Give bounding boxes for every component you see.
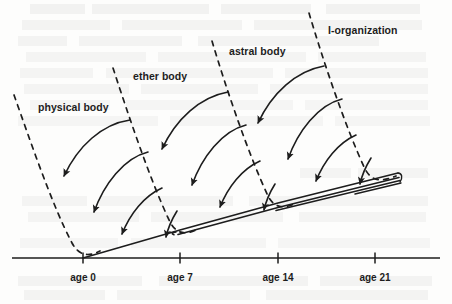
incarnation-strand-3 (276, 181, 400, 211)
curve-ether-body (113, 68, 198, 233)
member-curves (14, 13, 396, 254)
curve-physical-body (14, 95, 100, 254)
time-axis (12, 253, 440, 264)
arrow (162, 92, 228, 149)
arrow (94, 152, 148, 212)
arrow (316, 135, 356, 181)
curve-i-organization (309, 13, 396, 180)
arrow-group-physical-body (64, 120, 177, 237)
arrow (192, 125, 246, 185)
arrow (220, 161, 260, 207)
label-i-organization: I-organization (328, 24, 398, 36)
axis-label-age-0: age 0 (70, 272, 96, 283)
label-physical-body: physical body (38, 101, 109, 113)
arrow (258, 66, 324, 123)
diagram-canvas: physical body ether body astral body I-o… (0, 0, 452, 304)
label-astral-body: astral body (229, 45, 286, 57)
label-ether-body: ether body (133, 70, 187, 82)
incarnation-strand-1 (83, 173, 398, 258)
curve-astral-body (212, 41, 296, 207)
arrow (288, 99, 342, 159)
diagram-vector-layer (0, 0, 452, 304)
arrow (122, 188, 162, 234)
arrow (64, 120, 130, 176)
incarnation-joint-age-7 (172, 232, 176, 235)
axis-label-age-14: age 14 (262, 272, 293, 283)
axis-label-age-21: age 21 (359, 272, 390, 283)
arrow-group-ether-body (162, 92, 275, 210)
incarnation-strand-4 (355, 183, 401, 194)
arrow-group-astral-body (258, 66, 371, 184)
axis-label-age-7: age 7 (167, 272, 193, 283)
